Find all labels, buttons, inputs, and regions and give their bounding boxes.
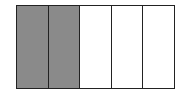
empty-part [79, 6, 111, 88]
fraction-bar [16, 5, 175, 89]
empty-part [111, 6, 143, 88]
shaded-part [17, 6, 48, 88]
shaded-part [48, 6, 80, 88]
empty-part [142, 6, 174, 88]
